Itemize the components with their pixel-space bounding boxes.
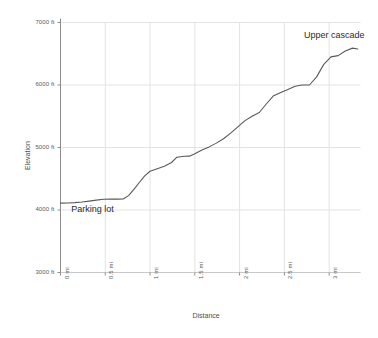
x-axis-tick-label: 3 mi bbox=[332, 267, 338, 279]
x-axis-tick-label: 1.5 mi bbox=[198, 262, 204, 279]
y-axis-title: Elevation bbox=[24, 141, 31, 170]
chart-annotation-label: Parking lot bbox=[71, 204, 114, 214]
x-axis-title: Distance bbox=[193, 312, 220, 319]
tick-marks bbox=[58, 23, 330, 276]
x-axis-tick-label: 2 mi bbox=[243, 267, 249, 279]
chart-annotation-label: Upper cascade bbox=[304, 30, 365, 40]
x-axis-tick-label: 1 mi bbox=[153, 267, 159, 279]
x-axis-tick-label: 0 mi bbox=[64, 267, 70, 279]
y-axis-tick-label: 4000 ft bbox=[11, 206, 55, 212]
plot-canvas bbox=[0, 0, 378, 338]
x-axis-tick-label: 2.5 mi bbox=[287, 262, 293, 279]
elevation-profile-chart: 3000 ft4000 ft5000 ft6000 ft7000 ft 0 mi… bbox=[0, 0, 378, 338]
y-axis-tick-label: 5000 ft bbox=[11, 144, 55, 150]
y-axis-tick-label: 3000 ft bbox=[11, 269, 55, 275]
x-axis-tick-label: 0.5 mi bbox=[108, 262, 114, 279]
y-axis-tick-label: 6000 ft bbox=[11, 81, 55, 87]
y-axis-tick-label: 7000 ft bbox=[11, 19, 55, 25]
